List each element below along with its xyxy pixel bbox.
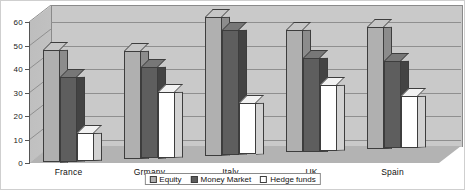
bar-france-money-market [60, 77, 77, 162]
bar-face [303, 58, 320, 152]
bar-side [256, 102, 264, 154]
y-axis-tick-label: 20 [14, 112, 24, 121]
bar-face [158, 92, 175, 158]
bar-top [43, 42, 68, 50]
bar-top [205, 9, 230, 17]
legend-item-hedge-funds: Hedge funds [260, 175, 315, 184]
bar-spain-money-market [384, 61, 401, 148]
bar-face [320, 85, 337, 151]
bar-grmany-hedge-funds [158, 92, 175, 158]
legend-label-hedge-funds: Hedge funds [270, 175, 315, 184]
bar-france-equity [43, 50, 60, 163]
y-axis-tick-label: 0 [18, 159, 23, 168]
y-axis-tick-label: 30 [14, 88, 24, 97]
bar-face [384, 61, 401, 148]
legend-swatch-hedge-funds [260, 176, 267, 183]
bar-side [175, 92, 183, 158]
bar-italy-hedge-funds [239, 103, 256, 155]
bar-top [286, 22, 311, 30]
y-axis-tick [25, 163, 30, 164]
bar-top [124, 43, 149, 51]
legend-label-equity: Equity [159, 175, 181, 184]
bar-face [239, 103, 256, 155]
bar-grmany-equity [124, 51, 141, 159]
x-axis-label-spain: Spain [381, 167, 404, 177]
bar-italy-equity [205, 17, 222, 156]
y-axis-tick-label: 60 [14, 18, 24, 27]
bar-top [367, 19, 392, 27]
bar-face [286, 30, 303, 152]
bar-face [367, 27, 384, 149]
legend-item-equity: Equity [149, 175, 181, 184]
y-axis-tick-label: 50 [14, 41, 24, 50]
bar-spain-hedge-funds [401, 96, 418, 148]
bar-face [222, 30, 239, 155]
legend-label-money-market: Money Market [201, 175, 252, 184]
plot-area: 0102030405060 [29, 5, 461, 163]
bar-uk-hedge-funds [320, 85, 337, 151]
legend-swatch-equity [149, 176, 156, 183]
bar-face [43, 50, 60, 163]
bar-face [124, 51, 141, 159]
bar-face [205, 17, 222, 156]
bar-grmany-money-market [141, 67, 158, 159]
bar-uk-equity [286, 30, 303, 152]
y-axis-tick-label: 40 [14, 65, 24, 74]
x-axis-label-france: France [55, 167, 83, 177]
y-axis-tick-label: 10 [14, 135, 24, 144]
bars-layer [29, 5, 461, 163]
bar-face [60, 77, 77, 162]
bar-side [94, 132, 102, 161]
bar-spain-equity [367, 27, 384, 149]
bar-face [141, 67, 158, 159]
bar-face [401, 96, 418, 148]
bar-uk-money-market [303, 58, 320, 152]
bar-italy-money-market [222, 30, 239, 155]
bar-chart: 0102030405060 FranceGrmanyItalyUKSpain E… [0, 0, 465, 190]
bar-side [418, 96, 426, 148]
legend-swatch-money-market [191, 176, 198, 183]
bar-france-hedge-funds [77, 133, 94, 161]
legend-item-money-market: Money Market [191, 175, 252, 184]
bar-face [77, 133, 94, 161]
bar-side [337, 85, 345, 151]
chart-legend: Equity Money Market Hedge funds [144, 173, 320, 185]
